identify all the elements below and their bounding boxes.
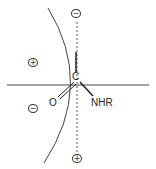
sign-lower-left-minus-icon: − [28, 104, 38, 113]
nhr-label: NHR [91, 98, 113, 108]
diagram-lines [0, 0, 156, 169]
sign-top-minus-icon: − [71, 9, 81, 18]
bond-c-n [80, 82, 93, 96]
double-bond-co-1 [58, 82, 74, 97]
double-bond-co-2 [60, 84, 76, 99]
carbon-label: C [72, 72, 79, 82]
sign-bottom-plus-icon: + [72, 154, 82, 163]
sign-upper-left-plus-icon: + [28, 58, 38, 67]
oxygen-label: O [49, 98, 57, 108]
